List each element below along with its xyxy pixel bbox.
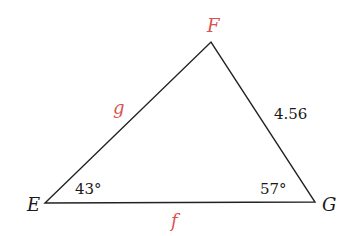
angle-label-G: 57° [260, 180, 287, 198]
side-label-g: g [113, 97, 125, 118]
angle-label-E: 43° [75, 180, 102, 198]
vertex-label-G: G [322, 194, 336, 215]
triangle-diagram: F E G g 4.56 f 43° 57° [0, 0, 356, 236]
side-label-FG: 4.56 [274, 105, 307, 123]
vertex-label-F: F [206, 15, 221, 36]
side-label-f: f [169, 210, 181, 231]
vertex-label-E: E [26, 194, 40, 215]
